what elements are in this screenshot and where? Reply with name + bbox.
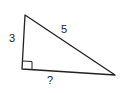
hypotenuse-label: 5 <box>61 23 67 35</box>
bottom-leg-label: ? <box>47 74 53 86</box>
left-leg-label: 3 <box>9 32 15 44</box>
right-angle-marker <box>23 61 33 70</box>
triangle-diagram: 3 5 ? <box>0 0 124 93</box>
right-triangle <box>22 15 115 75</box>
